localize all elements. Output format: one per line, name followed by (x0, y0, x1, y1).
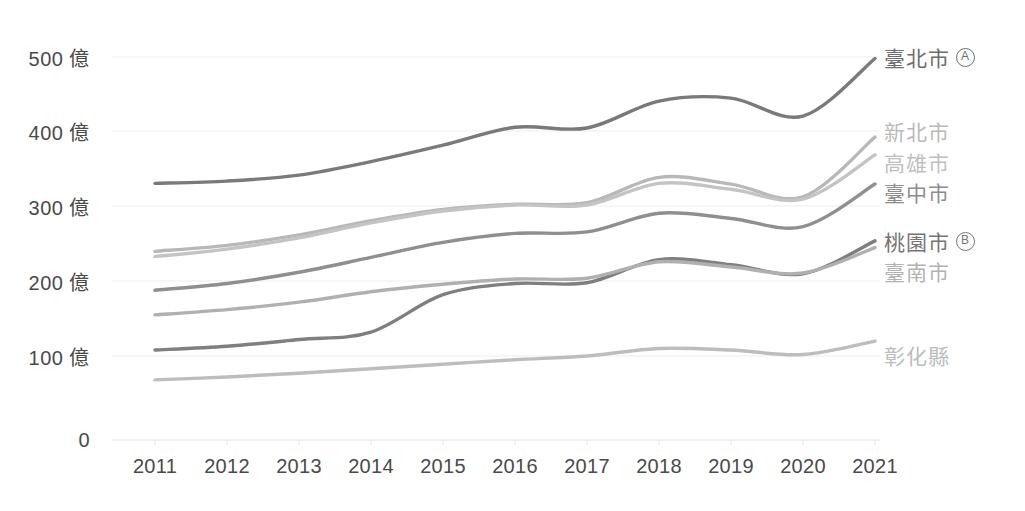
x-axis-tick-label: 2015 (420, 455, 466, 478)
legend-item-高雄市: 高雄市 (884, 147, 950, 177)
series-line-臺南市 (155, 248, 875, 315)
x-axis-tick-label: 2017 (564, 455, 610, 478)
y-axis-tick-label: 400 億 (0, 117, 90, 146)
legend-item-臺中市: 臺中市 (884, 177, 950, 207)
legend-item-label: 桃園市 (884, 226, 950, 256)
legend-item-臺北市: 臺北市A (884, 42, 975, 72)
x-axis-tick-label: 2021 (852, 455, 898, 478)
y-axis-tick-label: 0 (0, 429, 90, 452)
legend-item-label: 臺南市 (884, 256, 950, 286)
series-lines-layer (0, 0, 1025, 511)
y-axis-tick-label: 500 億 (0, 43, 90, 72)
x-axis-tick-label: 2018 (636, 455, 682, 478)
legend-item-label: 新北市 (884, 116, 950, 146)
legend-badge-a-icon: A (956, 48, 975, 67)
legend-badge-b-icon: B (956, 232, 975, 251)
legend-item-彰化縣: 彰化縣 (884, 340, 950, 370)
x-axis-tick-label: 2011 (133, 455, 177, 478)
legend-item-label: 彰化縣 (884, 340, 950, 370)
y-axis-tick-label: 300 億 (0, 192, 90, 221)
legend-item-label: 臺中市 (884, 177, 950, 207)
legend-item-臺南市: 臺南市 (884, 256, 950, 286)
legend-item-label: 臺北市 (884, 42, 950, 72)
y-axis-tick-label: 100 億 (0, 342, 90, 371)
x-axis-tick-label: 2012 (204, 455, 250, 478)
series-line-臺北市 (155, 59, 875, 184)
legend-item-label: 高雄市 (884, 147, 950, 177)
series-line-彰化縣 (155, 341, 875, 380)
legend-item-桃園市: 桃園市B (884, 226, 975, 256)
series-line-桃園市 (155, 241, 875, 350)
x-axis-tick-label: 2020 (780, 455, 826, 478)
line-chart: 500 億400 億300 億200 億100 億0 2011201220132… (0, 0, 1025, 511)
legend-item-新北市: 新北市 (884, 116, 950, 146)
x-axis-tick-label: 2016 (492, 455, 538, 478)
x-axis-tick-label: 2013 (276, 455, 322, 478)
x-axis-tick-label: 2014 (348, 455, 394, 478)
series-line-臺中市 (155, 184, 875, 290)
y-axis-tick-label: 200 億 (0, 267, 90, 296)
x-axis-tick-label: 2019 (708, 455, 754, 478)
